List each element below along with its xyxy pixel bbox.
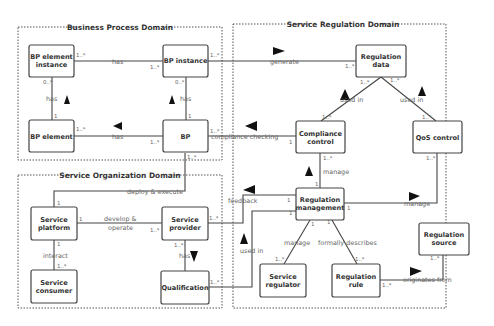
entity-regulation-data[interactable]: Regulation data [356, 45, 406, 77]
entity-bp-element-instance[interactable]: BP element instance [29, 45, 74, 77]
svg-text:Regulation: Regulation [361, 53, 402, 61]
svg-text:Service: Service [40, 216, 68, 224]
svg-text:1..*: 1..* [430, 255, 440, 261]
label-has: has [112, 133, 124, 141]
svg-text:1..*: 1..* [76, 52, 86, 58]
svg-text:instance: instance [36, 61, 68, 69]
svg-text:BP instance: BP instance [164, 57, 208, 65]
svg-text:1: 1 [311, 221, 314, 227]
entity-compliance-control[interactable]: Compliance control [296, 121, 345, 153]
label-develop: develop & [104, 215, 136, 223]
svg-text:0..*: 0..* [175, 79, 185, 85]
label-used-in: used in [340, 96, 363, 104]
svg-text:Regulation: Regulation [300, 196, 341, 204]
arrow-left-icon [113, 122, 122, 130]
svg-text:Regulation: Regulation [424, 231, 465, 239]
label-formally-describes: formally describes [318, 239, 377, 247]
svg-text:QoS control: QoS control [416, 134, 460, 142]
domain-title-business-process: Business Process Domain [67, 23, 173, 32]
svg-text:1..*: 1..* [323, 155, 333, 161]
svg-text:1..*: 1..* [322, 114, 332, 120]
entity-service-regulator[interactable]: Service regulator [260, 264, 306, 297]
svg-text:1: 1 [54, 113, 57, 119]
entity-regulation-management[interactable]: Regulation management [296, 188, 345, 220]
domain-title-service-organization: Service Organization Domain [59, 171, 180, 180]
entity-service-consumer[interactable]: Service consumer [31, 270, 77, 303]
svg-text:1: 1 [79, 216, 82, 222]
arrow-up-icon [305, 166, 313, 176]
label-operate: operate [108, 224, 133, 232]
entity-service-provider[interactable]: Service provider [162, 207, 208, 240]
svg-text:1..*: 1..* [57, 263, 67, 269]
svg-text:1..*: 1..* [390, 77, 400, 83]
svg-text:regulator: regulator [266, 281, 302, 289]
label-interact: interact [43, 252, 68, 260]
svg-text:1..*: 1..* [150, 64, 160, 70]
entity-bp-instance[interactable]: BP instance [163, 45, 208, 77]
label-manage: manage [284, 239, 310, 247]
label-deploy-execute: deploy & execute [127, 188, 183, 196]
svg-text:1..*: 1..* [209, 215, 219, 221]
svg-text:Service: Service [171, 216, 199, 224]
svg-text:Regulation: Regulation [336, 273, 377, 281]
svg-text:1..*: 1..* [422, 114, 432, 120]
svg-text:Service: Service [40, 279, 68, 287]
label-has: has [46, 95, 58, 103]
svg-text:1..*: 1..* [275, 256, 285, 262]
svg-text:rule: rule [349, 281, 364, 289]
arrow-left-icon [243, 185, 255, 194]
label-manage: manage [323, 168, 349, 176]
arrow-left-icon [245, 121, 257, 131]
svg-text:data: data [373, 61, 390, 69]
entity-service-platform[interactable]: Service platform [31, 207, 77, 240]
svg-text:1..*: 1..* [76, 126, 86, 132]
entity-bp-element[interactable]: BP element [29, 120, 74, 152]
svg-text:source: source [432, 239, 457, 247]
arrow-right-icon [410, 267, 422, 276]
svg-text:Qualification: Qualification [161, 284, 208, 292]
svg-text:1..*: 1..* [150, 139, 160, 145]
label-compliance-checking: compliance checking [211, 133, 278, 141]
label-manage: manage [404, 200, 430, 208]
svg-text:control: control [307, 138, 333, 146]
label-feedback: feedback [228, 197, 258, 205]
svg-text:1: 1 [188, 113, 191, 119]
entity-bp[interactable]: BP [163, 120, 208, 152]
svg-text:1: 1 [315, 181, 318, 187]
arrow-up-icon [418, 86, 426, 96]
svg-text:1..*: 1..* [150, 227, 160, 233]
arrow-right-icon [273, 47, 285, 55]
svg-text:1: 1 [57, 241, 60, 247]
entity-qos-control[interactable]: QoS control [413, 121, 462, 153]
svg-text:1..*: 1..* [210, 128, 220, 134]
entity-regulation-rule[interactable]: Regulation rule [332, 264, 380, 297]
svg-text:1: 1 [289, 139, 292, 145]
svg-text:Compliance: Compliance [299, 130, 343, 138]
label-has: has [112, 58, 124, 66]
label-has: has [179, 252, 191, 260]
svg-text:1..*: 1..* [187, 154, 197, 160]
svg-text:Service: Service [269, 273, 297, 281]
svg-text:management: management [296, 204, 345, 212]
svg-text:platform: platform [38, 224, 70, 232]
svg-text:1..*: 1..* [355, 256, 365, 262]
svg-text:consumer: consumer [36, 287, 73, 295]
svg-text:1: 1 [287, 197, 290, 203]
label-originates-from: originates from [403, 276, 452, 284]
svg-text:BP element: BP element [30, 133, 73, 141]
arrow-up-icon [240, 233, 248, 244]
svg-text:1..*: 1..* [210, 279, 220, 285]
label-used-in: used in [240, 247, 263, 255]
arrow-down-icon [190, 251, 198, 262]
domain-title-service-regulation: Service Regulation Domain [287, 20, 400, 29]
entity-qualification[interactable]: Qualification [161, 271, 209, 304]
entity-regulation-source[interactable]: Regulation source [419, 223, 469, 255]
svg-text:BP element: BP element [30, 53, 73, 61]
arrow-up-icon [169, 95, 175, 104]
label-has: has [180, 95, 192, 103]
svg-text:1..*: 1..* [345, 63, 355, 69]
svg-text:1..*: 1..* [426, 155, 436, 161]
svg-text:BP: BP [181, 133, 191, 141]
svg-text:1..*: 1..* [174, 242, 184, 248]
svg-text:1..*: 1..* [360, 79, 370, 85]
